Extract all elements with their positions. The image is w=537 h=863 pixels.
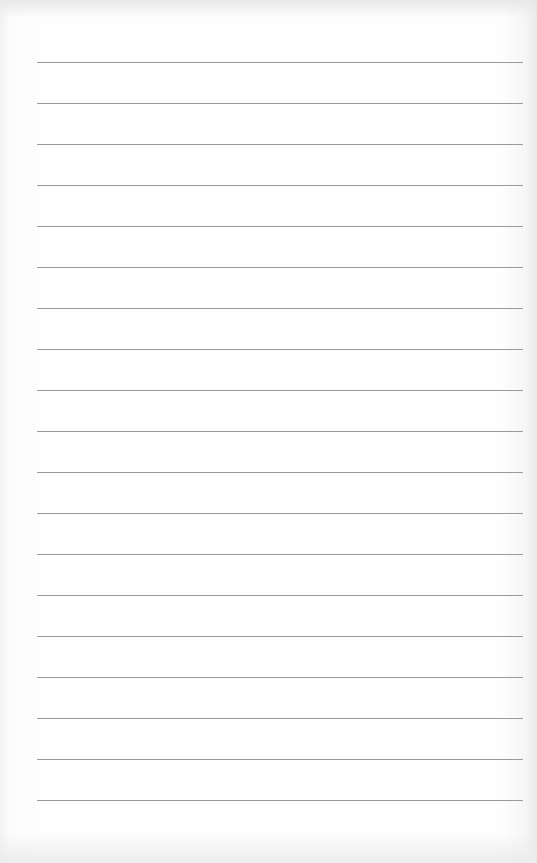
ruled-line bbox=[37, 308, 523, 309]
ruled-line bbox=[37, 718, 523, 719]
top-edge-shadow bbox=[0, 0, 537, 18]
ruled-line bbox=[37, 390, 523, 391]
ruled-line bbox=[37, 103, 523, 104]
ruled-line bbox=[37, 62, 523, 63]
ruled-line bbox=[37, 759, 523, 760]
ruled-line bbox=[37, 431, 523, 432]
ruled-line bbox=[37, 513, 523, 514]
ruled-line bbox=[37, 349, 523, 350]
ruled-line bbox=[37, 554, 523, 555]
ruled-line bbox=[37, 267, 523, 268]
ruled-line bbox=[37, 677, 523, 678]
lined-paper-sheet bbox=[0, 0, 537, 863]
ruled-line bbox=[37, 226, 523, 227]
ruled-line bbox=[37, 144, 523, 145]
ruled-line bbox=[37, 595, 523, 596]
ruled-line bbox=[37, 185, 523, 186]
ruled-line bbox=[37, 800, 523, 801]
ruled-line bbox=[37, 472, 523, 473]
bottom-edge-shadow bbox=[0, 833, 537, 863]
ruled-line bbox=[37, 636, 523, 637]
